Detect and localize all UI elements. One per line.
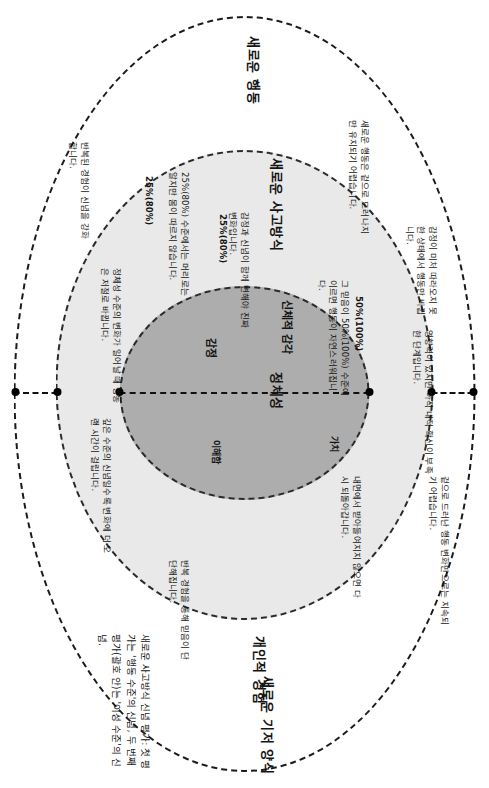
zone-label-new-base: 새로운 기저 양식 xyxy=(257,676,275,774)
zone-label-identity: 정체성 xyxy=(266,372,284,410)
core-word-emotion: 감정 xyxy=(202,338,217,358)
annotation-middle-a: 그 믿음이 50%(100%) 수준에 이르면 행동이 자연스러워집니다. xyxy=(314,280,349,398)
annotation-bottom-d: 깊은 수준의 신념일수록 변화에 더 오랜 시간이 걸립니다. xyxy=(88,418,111,560)
annotation-top-a: 영향력이 있지만 아직 내적 확신이 부족한 단계입니다. xyxy=(410,330,433,480)
percent-label-lower: 25%(80%) xyxy=(141,176,153,225)
annotation-right-b: 내면에서 받아들여지지 않으면 다시 되돌아갑니다. xyxy=(338,476,361,604)
zone-label-sensation: 신체적 감각 xyxy=(278,300,293,354)
annotation-right-a: 겉으로 드러난 행동 변화만으로는 지속되기 어렵습니다. xyxy=(426,476,449,626)
axis-node-dot xyxy=(469,388,477,396)
axis-node-dot xyxy=(11,388,19,396)
axis-node-dot xyxy=(53,388,61,396)
axis-node-dot xyxy=(365,388,373,396)
annotation-right-c: 반복 경험을 통해 믿음이 단단해집니다. xyxy=(166,560,189,668)
percent-label-inner: 25%(80%) xyxy=(215,214,227,263)
diagram-canvas: 새로운 행동 새로운 사고방식 정체성 신체적 감각 개인적 경험 새로운 기저… xyxy=(0,0,489,788)
zone-label-thinking: 새로운 사고방식 xyxy=(266,158,284,251)
percent-label-middle: 50%(100%) xyxy=(351,296,363,351)
annotation-middle-b: 감정과 신념이 함께 변해야 진짜 변화입니다. xyxy=(226,212,249,332)
annotation-top-c: 새로운 행동은 겉으로 드러나지만 유지되기 어렵습니다. xyxy=(346,120,369,238)
annotation-bottom-a: 25%(80%) 수준에서는 머리로는 알지만 몸이 따르지 않습니다. xyxy=(166,172,189,304)
core-word-value: 가치 xyxy=(327,436,339,452)
axis-segment-top xyxy=(431,392,473,394)
diagram-caption: 새로운 사고방식 신념 평가: 첫 평가는 '행동 수준'의 신념, 두 번째 … xyxy=(93,634,151,774)
core-word-feeling: 이해함 xyxy=(209,440,221,464)
zone-label-behavior: 새로운 행동 xyxy=(243,36,261,104)
axis-segment-bottom xyxy=(13,392,57,394)
annotation-bottom-b: 반복된 경험이 신념을 강화합니다. xyxy=(66,142,89,246)
annotation-bottom-c: 정체성 수준의 변화가 일어날 때 행동은 저절로 바뀝니다. xyxy=(98,268,121,404)
annotation-top-b: 감정이 미처 따라오지 못한 상태에서 행동만 바뀝니다. xyxy=(402,226,437,322)
